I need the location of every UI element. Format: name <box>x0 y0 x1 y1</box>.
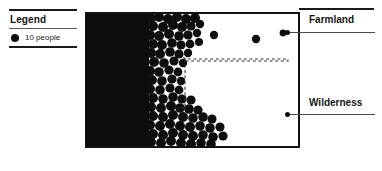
farmland-leader-dot-icon <box>285 30 290 35</box>
wilderness-leader-line <box>287 114 375 115</box>
legend-item-people: 10 people <box>9 29 77 46</box>
dot-cluster-farmland-sparse <box>210 30 287 44</box>
legend-bottom-rule <box>9 46 77 48</box>
map-frame <box>85 12 300 148</box>
settled-core-block <box>87 14 149 146</box>
figure-root: Legend 10 people <box>0 0 382 171</box>
legend-panel: Legend 10 people <box>9 9 77 48</box>
wilderness-label: Wilderness <box>309 97 362 109</box>
dot-density-map <box>87 14 298 146</box>
farmland-top-rule <box>299 8 374 10</box>
wilderness-leader-dot-icon <box>285 112 290 117</box>
farmland-label: Farmland <box>309 14 354 26</box>
legend-item-label: 10 people <box>25 33 60 42</box>
legend-title: Legend <box>9 11 77 28</box>
filled-circle-icon <box>11 34 19 42</box>
farmland-leader-line <box>287 32 375 33</box>
